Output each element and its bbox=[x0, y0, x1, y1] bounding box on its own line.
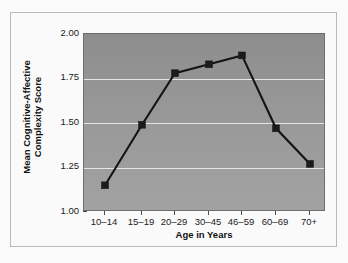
data-point-46-59 bbox=[239, 52, 246, 59]
figure: 2.00 1.75 1.50 1.25 1.00 10–14 15–19 20 bbox=[0, 0, 348, 263]
y-tick-label-2-00: 2.00 bbox=[39, 28, 79, 38]
data-point-60-69 bbox=[273, 125, 280, 132]
data-point-15-19 bbox=[139, 121, 146, 128]
x-tick-mark-60-69 bbox=[275, 211, 276, 215]
y-tick-label-1-25: 1.25 bbox=[39, 161, 79, 171]
y-tick-label-1-50: 1.50 bbox=[39, 117, 79, 127]
data-point-10-14 bbox=[102, 182, 109, 189]
series-cognitive-affective-complexity bbox=[84, 34, 325, 211]
data-point-30-45 bbox=[206, 61, 213, 68]
y-axis-title: Mean Cognitive-Affective Complexity Scor… bbox=[21, 28, 43, 206]
x-axis-title: Age in Years bbox=[83, 229, 325, 240]
y-axis-title-line-1: Mean Cognitive-Affective bbox=[21, 28, 32, 206]
plot-area bbox=[83, 33, 325, 211]
x-tick-mark-15-19 bbox=[141, 211, 142, 215]
x-tick-mark-20-29 bbox=[174, 211, 175, 215]
y-tick-label-1-75: 1.75 bbox=[39, 72, 79, 82]
y-tick-label-1-00: 1.00 bbox=[39, 206, 79, 216]
x-tick-mark-30-45 bbox=[208, 211, 209, 215]
data-point-70-plus bbox=[307, 161, 314, 168]
x-tick-mark-70-plus bbox=[309, 211, 310, 215]
y-axis-title-line-2: Complexity Score bbox=[32, 28, 43, 206]
data-line bbox=[105, 55, 310, 185]
x-tick-mark-46-59 bbox=[241, 211, 242, 215]
x-tick-label-70-plus: 70+ bbox=[282, 216, 336, 227]
data-point-20-29 bbox=[172, 70, 179, 77]
x-tick-mark-10-14 bbox=[104, 211, 105, 215]
y-tick-mark-1-00 bbox=[83, 211, 87, 212]
